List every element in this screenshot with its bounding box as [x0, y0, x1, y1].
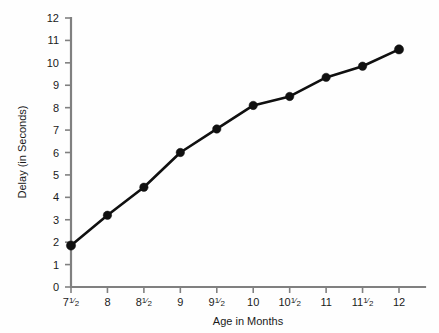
x-tick-label-1: 8	[104, 296, 110, 308]
y-axis-title: Delay (in Seconds)	[16, 106, 28, 199]
x-tick-label-2: 81⁄2	[136, 296, 153, 309]
data-point-8	[103, 211, 111, 219]
x-tick-label-0: 71⁄2	[63, 296, 80, 309]
data-point-10½	[285, 92, 293, 100]
y-tick-label-1: 1	[53, 259, 59, 271]
data-point-7½	[66, 241, 75, 250]
series-line	[71, 49, 399, 245]
data-point-11	[322, 73, 330, 81]
y-tick-label-2: 2	[53, 236, 59, 248]
y-tick-label-12: 12	[47, 12, 59, 24]
data-point-11½	[358, 62, 366, 70]
x-tick-label-4: 91⁄2	[209, 296, 226, 309]
data-point-9	[176, 148, 184, 156]
data-point-10	[249, 101, 257, 109]
y-tick-label-9: 9	[53, 79, 59, 91]
x-tick-label-9: 12	[393, 296, 405, 308]
x-tick-label-5: 10	[247, 296, 259, 308]
axis-lines	[71, 18, 425, 287]
y-tick-label-11: 11	[48, 34, 59, 46]
x-axis-title: Age in Months	[213, 315, 284, 327]
x-tick-label-6: 101⁄2	[278, 296, 301, 309]
y-tick-label-0: 0	[53, 281, 59, 293]
y-tick-label-10: 10	[47, 57, 59, 69]
data-point-8½	[140, 183, 148, 191]
x-tick-label-8: 111⁄2	[352, 296, 374, 309]
chart-figure: 0123456789101112 71⁄2881⁄2991⁄210101⁄211…	[0, 0, 439, 333]
data-series-delay	[66, 45, 403, 250]
x-tick-label-7: 11	[320, 296, 331, 308]
x-tick-label-3: 9	[177, 296, 183, 308]
y-tick-label-4: 4	[53, 191, 59, 203]
x-axis-tick-labels: 71⁄2881⁄2991⁄210101⁄211111⁄212	[63, 296, 405, 309]
y-tick-label-6: 6	[53, 147, 59, 159]
line-chart-canvas: 0123456789101112 71⁄2881⁄2991⁄210101⁄211…	[0, 0, 439, 333]
y-tick-label-8: 8	[53, 102, 59, 114]
data-point-12	[394, 45, 403, 54]
data-point-9½	[213, 125, 221, 133]
y-tick-label-5: 5	[53, 169, 59, 181]
y-tick-label-7: 7	[53, 124, 59, 136]
series-markers	[66, 45, 403, 250]
y-tick-label-3: 3	[53, 214, 59, 226]
y-axis-tick-labels: 0123456789101112	[47, 12, 59, 293]
chart-axes	[71, 18, 425, 287]
